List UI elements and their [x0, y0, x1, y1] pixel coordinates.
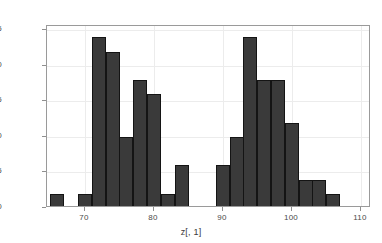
x-axis-title: z[, 1]	[0, 227, 382, 237]
x-tick-label: 110	[340, 213, 380, 222]
x-tick-mark	[291, 207, 292, 211]
histogram-bar	[326, 194, 340, 206]
histogram-bar	[312, 180, 326, 206]
histogram-bar	[161, 194, 175, 206]
histogram-bar	[50, 194, 64, 206]
y-tick-label: 12.5	[0, 25, 2, 33]
histogram-bar	[271, 80, 285, 206]
x-tick-mark	[153, 207, 154, 211]
x-tick-mark	[84, 207, 85, 211]
y-tick-label: 10.0	[0, 61, 2, 69]
y-tick-label: 7.5	[0, 96, 2, 104]
histogram-bar	[92, 37, 106, 206]
histogram-bar	[285, 123, 299, 206]
x-axis: z[, 1] 708090100110	[0, 207, 382, 243]
histogram-bar	[106, 52, 120, 206]
histogram-bar	[133, 80, 147, 206]
plot-frame	[46, 25, 370, 207]
histogram-bar	[299, 180, 313, 206]
y-tick-label: 2.5	[0, 167, 2, 175]
histogram-bar	[216, 165, 230, 206]
histogram-bar	[175, 165, 189, 206]
x-tick-mark	[360, 207, 361, 211]
histogram-bar	[230, 137, 244, 206]
gridline-vertical	[361, 26, 362, 206]
x-tick-label: 70	[64, 213, 104, 222]
gridline-vertical	[85, 26, 86, 206]
histogram-bar	[147, 94, 161, 206]
histogram-bar	[78, 194, 92, 206]
y-tick-label: 5.0	[0, 132, 2, 140]
plot-area	[47, 26, 369, 206]
histogram-bar	[257, 80, 271, 206]
x-tick-label: 100	[271, 213, 311, 222]
x-tick-label: 80	[133, 213, 173, 222]
x-tick-label: 90	[202, 213, 242, 222]
gridline-horizontal	[47, 30, 369, 31]
x-tick-mark	[222, 207, 223, 211]
histogram-bar	[243, 37, 257, 206]
histogram-bar	[119, 137, 133, 206]
histogram-figure: 0.02.55.07.510.012.5 z[, 1] 708090100110	[0, 0, 382, 243]
